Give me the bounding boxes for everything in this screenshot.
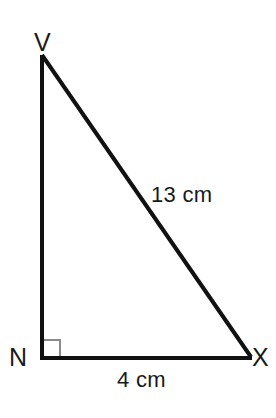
vertex-label-v: V xyxy=(34,30,51,55)
side-vx-line xyxy=(42,55,251,357)
side-length-label-base: 4 cm xyxy=(117,369,166,391)
right-angle-marker xyxy=(42,340,60,358)
side-length-label-hypotenuse: 13 cm xyxy=(151,184,212,206)
triangle-diagram: V N X 13 cm 4 cm xyxy=(0,0,276,418)
triangle-shape xyxy=(0,0,276,418)
vertex-label-n: N xyxy=(9,345,27,370)
vertex-label-x: X xyxy=(252,345,269,370)
